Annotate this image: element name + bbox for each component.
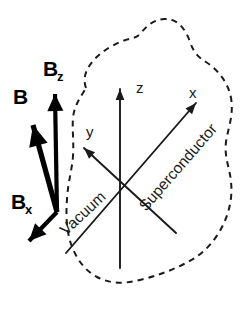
vector-Bz-label: B bbox=[43, 57, 58, 80]
region-labels: Vacuum Superconductor bbox=[56, 120, 220, 238]
field-vectors: B B z B x bbox=[11, 57, 64, 241]
region-label-superconductor: Superconductor bbox=[135, 120, 220, 214]
vector-Bx-subscript: x bbox=[25, 202, 33, 217]
vector-B-label: B bbox=[13, 85, 28, 108]
axis-z-arrowhead bbox=[116, 89, 125, 100]
vector-Bx: B x bbox=[11, 190, 57, 241]
physics-diagram-figure: z y x Vacuum Superconductor bbox=[0, 0, 244, 315]
axis-z-label: z bbox=[136, 79, 144, 96]
vector-Bz-subscript: z bbox=[57, 69, 64, 84]
axis-x-label: x bbox=[189, 84, 197, 101]
vector-Bz-arrowhead bbox=[47, 94, 63, 111]
vector-Bz-shaft bbox=[55, 94, 57, 212]
axis-z: z bbox=[116, 79, 144, 268]
vector-Bz: B z bbox=[43, 57, 64, 212]
axis-y-label: y bbox=[86, 123, 94, 140]
vector-Bx-label: B bbox=[11, 190, 26, 213]
diagram-canvas: z y x Vacuum Superconductor bbox=[0, 0, 244, 315]
